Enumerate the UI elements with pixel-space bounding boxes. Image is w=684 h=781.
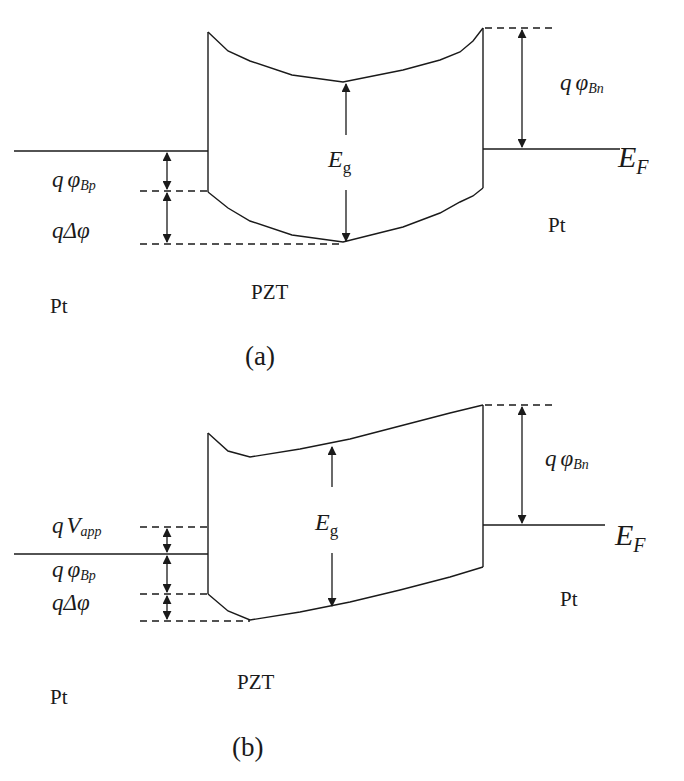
- barrier-n-label-b: qφBn: [545, 446, 589, 472]
- right-metal-label-a: Pt: [548, 213, 566, 237]
- conduction-band-b: [208, 405, 483, 457]
- fermi-label-b: EF: [614, 518, 646, 556]
- insulator-label-a: PZT: [251, 280, 289, 304]
- delta-phi-label-b: qΔφ: [52, 590, 90, 615]
- diagram-b: EF Eg qφBn qVapp qφBp qΔφ Pt Pt PZT (b): [14, 405, 646, 762]
- barrier-p-label-b: qφBp: [52, 557, 96, 583]
- valence-band-b: [208, 567, 483, 620]
- band-diagram-figure: EF Eg qφBn qφBp qΔφ Pt Pt PZT (a): [0, 0, 684, 781]
- caption-a: (a): [245, 341, 275, 371]
- gap-label-b: Eg: [314, 509, 339, 540]
- left-metal-label-a: Pt: [50, 294, 68, 318]
- delta-phi-label-a: qΔφ: [52, 218, 90, 243]
- caption-b: (b): [232, 732, 263, 762]
- vapp-label-b: qVapp: [52, 513, 102, 539]
- diagram-a: EF Eg qφBn qφBp qΔφ Pt Pt PZT (a): [14, 28, 649, 371]
- barrier-p-label-a: qφBp: [52, 167, 96, 193]
- conduction-band-a: [208, 28, 483, 82]
- left-metal-label-b: Pt: [50, 685, 68, 709]
- right-metal-label-b: Pt: [560, 587, 578, 611]
- gap-label-a: Eg: [327, 146, 352, 177]
- insulator-label-b: PZT: [237, 670, 275, 694]
- barrier-n-label-a: qφBn: [560, 70, 604, 96]
- fermi-label-a: EF: [617, 140, 649, 178]
